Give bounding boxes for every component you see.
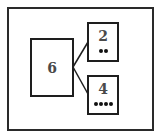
connector-lines bbox=[0, 0, 162, 134]
part-value-top: 2 bbox=[98, 29, 108, 43]
dot bbox=[99, 102, 103, 106]
dot-group-top bbox=[99, 49, 108, 53]
connector-line-top bbox=[73, 42, 88, 67]
part-box-top: 2 bbox=[87, 22, 119, 62]
whole-value: 6 bbox=[47, 61, 57, 75]
dot bbox=[99, 49, 103, 53]
dot bbox=[94, 102, 98, 106]
dot bbox=[104, 49, 108, 53]
part-box-bottom: 4 bbox=[87, 75, 119, 115]
whole-box: 6 bbox=[30, 38, 74, 97]
dot-group-bottom bbox=[94, 102, 113, 106]
number-bond-diagram: 6 2 4 bbox=[0, 0, 162, 134]
part-value-bottom: 4 bbox=[98, 82, 108, 96]
connector-line-bottom bbox=[73, 67, 88, 94]
dot bbox=[109, 102, 113, 106]
dot bbox=[104, 102, 108, 106]
